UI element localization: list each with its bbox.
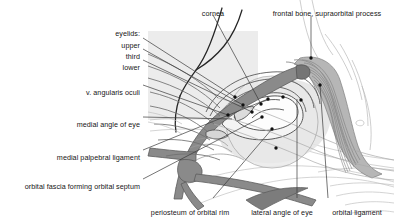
label-orbital-fascia-forming-orbital-septum: orbital fascia forming orbital septum [25,182,140,191]
label-periosteum-of-orbital-rim: periosteum of orbital rim [151,208,229,217]
marker-orbital-ligament [318,83,321,86]
marker-upper-eyelid [233,95,236,98]
marker-frontal-bone [309,56,312,59]
label-orbital-ligament: orbital ligament [332,208,382,217]
marker-cornea [259,102,262,105]
label-eyelids: eyelids: [115,29,140,38]
label-lateral-angle-of-eye: lateral angle of eye [251,208,313,217]
marker-third-eyelid [241,103,244,106]
label-cornea: cornea [202,9,224,18]
label-third-eyelid: third [126,52,140,61]
label-frontal-bone-supraorbital-process: frontal bone, supraorbital process [273,9,381,18]
label-upper-eyelid: upper [121,41,140,50]
label-medial-palpebral-ligament: medial palpebral ligament [57,153,140,162]
label-vena-angularis-oculi: v. angularis oculi [86,88,140,97]
label-medial-angle-of-eye: medial angle of eye [77,120,140,129]
label-lower-eyelid: lower [123,63,140,72]
marker-periosteum [270,127,273,130]
marker-v-angularis-oculi [226,113,229,116]
marker-orbital-fascia [260,115,263,118]
marker-medial-palpebral [266,97,269,100]
marker-lateral-angle [274,146,277,149]
anatomy-figure: eyelids:upperthirdlowerv. angularis ocul… [0,0,394,221]
marker-lower-eyelid [250,110,253,113]
marker-extra-1 [281,95,284,98]
marker-extra-2 [299,98,302,101]
